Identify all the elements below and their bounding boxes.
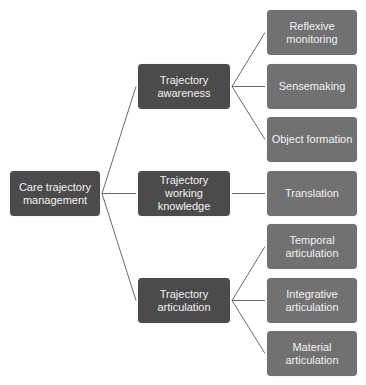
node-integrative-articulation: Integrative articulation (267, 278, 357, 323)
node-label: Trajectory awareness (142, 74, 226, 100)
node-object-formation: Object formation (267, 117, 357, 162)
connector-root-m3 (102, 194, 136, 301)
connector-m3-l7 (232, 301, 265, 354)
node-care-trajectory-management: Care trajectory management (10, 171, 100, 216)
node-reflexive-monitoring: Reflexive monitoring (267, 10, 357, 55)
node-label: Sensemaking (279, 80, 346, 93)
node-label: Integrative articulation (271, 288, 353, 314)
connector-m3-l5 (232, 247, 265, 301)
node-label: Temporal articulation (271, 234, 353, 260)
node-translation: Translation (267, 171, 357, 216)
node-label: Trajectory working knowledge (142, 174, 226, 213)
node-label: Reflexive monitoring (271, 20, 353, 46)
node-label: Trajectory articulation (142, 288, 226, 314)
node-sensemaking: Sensemaking (267, 64, 357, 109)
node-material-articulation: Material articulation (267, 331, 357, 376)
connector-root-m1 (102, 87, 136, 194)
connector-m1-l3 (232, 87, 265, 140)
node-label: Care trajectory management (14, 181, 96, 207)
node-label: Material articulation (271, 341, 353, 367)
node-temporal-articulation: Temporal articulation (267, 224, 357, 269)
node-trajectory-articulation: Trajectory articulation (138, 278, 230, 323)
node-trajectory-working-knowledge: Trajectory working knowledge (138, 171, 230, 216)
connector-m1-l1 (232, 33, 265, 87)
node-label: Translation (285, 187, 339, 200)
node-label: Object formation (272, 133, 353, 146)
tree-diagram: Care trajectory management Trajectory aw… (0, 0, 366, 385)
node-trajectory-awareness: Trajectory awareness (138, 64, 230, 109)
